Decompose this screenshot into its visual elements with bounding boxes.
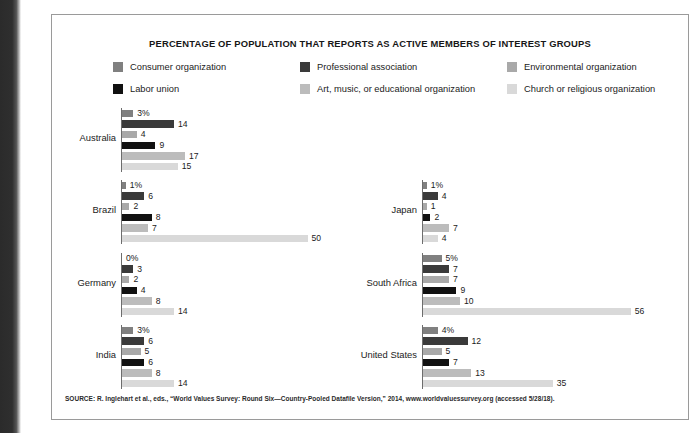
bar-row: 3	[122, 264, 188, 275]
bar-church-or-religious-organization	[423, 308, 631, 315]
bar-professional-association	[122, 337, 144, 344]
bar-art-music-or-educational-organization	[423, 224, 449, 231]
country-axis-label: India	[0, 349, 116, 360]
page-gutter	[0, 0, 21, 433]
bar-row: 4%	[423, 325, 566, 336]
bar-value-label: 14	[178, 120, 188, 129]
bar-church-or-religious-organization	[122, 308, 174, 315]
bar-row: 9	[122, 140, 199, 151]
bar-environmental-organization	[122, 131, 137, 138]
bar-church-or-religious-organization	[122, 235, 308, 242]
bar-professional-association	[423, 337, 468, 344]
bar-row: 14	[122, 306, 188, 317]
bar-row: 2	[423, 212, 458, 223]
bar-value-label: 3%	[137, 109, 149, 118]
bar-row: 10	[423, 296, 644, 307]
bar-row: 7	[122, 223, 321, 234]
bar-row: 35	[423, 378, 566, 389]
bar-labor-union	[423, 214, 430, 221]
bar-consumer-organization	[122, 110, 133, 117]
bar-value-label: 2	[133, 202, 138, 211]
bar-consumer-organization	[423, 327, 438, 334]
bar-row: 50	[122, 233, 321, 244]
bar-value-label: 8	[156, 297, 161, 306]
bar-row: 5%	[423, 253, 644, 264]
page-surface: PERCENTAGE OF POPULATION THAT REPORTS AS…	[21, 0, 691, 433]
bar-value-label: 7	[152, 224, 157, 233]
bar-row: 12	[423, 336, 566, 347]
bar-art-music-or-educational-organization	[423, 369, 471, 376]
bar-church-or-religious-organization	[122, 163, 178, 170]
bar-row: 3%	[122, 325, 188, 336]
bar-church-or-religious-organization	[423, 235, 438, 242]
bar-row: 3%	[122, 108, 199, 119]
bar-labor-union	[122, 287, 137, 294]
country-group-united-states: United States4%12571335	[361, 325, 691, 389]
bar-professional-association	[122, 120, 174, 127]
bar-environmental-organization	[423, 348, 442, 355]
bar-value-label: 0%	[126, 254, 138, 263]
bar-value-label: 4%	[442, 326, 454, 335]
bar-church-or-religious-organization	[122, 380, 174, 387]
bar-row: 5	[122, 346, 188, 357]
bar-consumer-organization	[423, 182, 427, 189]
bar-value-label: 35	[557, 379, 567, 388]
bar-row: 7	[423, 264, 644, 275]
bar-row: 8	[122, 368, 188, 379]
bar-row: 7	[423, 274, 644, 285]
bar-stack: 5%7791056	[423, 253, 644, 317]
country-axis-label: United States	[267, 349, 417, 360]
bar-stack: 0%324814	[122, 253, 188, 317]
bar-value-label: 50	[312, 234, 322, 243]
bar-value-label: 12	[472, 337, 482, 346]
bar-art-music-or-educational-organization	[122, 152, 185, 159]
bar-value-label: 6	[148, 192, 153, 201]
bar-value-label: 14	[178, 379, 188, 388]
chart-plot-area: Australia3%14491715Brazil1%628750Germany…	[52, 15, 688, 419]
bar-art-music-or-educational-organization	[122, 224, 148, 231]
bar-row: 5	[423, 346, 566, 357]
bar-stack: 3%656814	[122, 325, 188, 389]
bar-labor-union	[122, 142, 155, 149]
bar-value-label: 5	[446, 347, 451, 356]
bar-environmental-organization	[122, 276, 129, 283]
bar-value-label: 9	[460, 286, 465, 295]
bar-value-label: 4	[442, 192, 447, 201]
bar-value-label: 7	[453, 358, 458, 367]
bar-row: 2	[122, 274, 188, 285]
bar-value-label: 14	[178, 307, 188, 316]
bar-value-label: 6	[148, 337, 153, 346]
country-axis-label: Germany	[0, 277, 116, 288]
bar-value-label: 8	[156, 369, 161, 378]
country-group-australia: Australia3%14491715	[60, 108, 390, 172]
bar-professional-association	[423, 265, 449, 272]
bar-labor-union	[122, 214, 152, 221]
bar-value-label: 13	[475, 369, 485, 378]
figure-frame: PERCENTAGE OF POPULATION THAT REPORTS AS…	[51, 14, 689, 420]
bar-professional-association	[122, 192, 144, 199]
bar-value-label: 7	[453, 275, 458, 284]
bar-consumer-organization	[122, 327, 133, 334]
bar-consumer-organization	[122, 182, 126, 189]
bar-environmental-organization	[122, 348, 141, 355]
bar-row: 14	[122, 378, 188, 389]
bar-stack: 4%12571335	[423, 325, 566, 389]
bar-row: 1	[423, 201, 458, 212]
bar-row: 56	[423, 306, 644, 317]
bar-row: 0%	[122, 253, 188, 264]
bar-value-label: 2	[133, 275, 138, 284]
bar-value-label: 17	[189, 152, 199, 161]
bar-value-label: 6	[148, 358, 153, 367]
bar-value-label: 7	[453, 224, 458, 233]
bar-row: 1%	[423, 180, 458, 191]
bar-labor-union	[122, 359, 144, 366]
bar-value-label: 3	[137, 265, 142, 274]
bar-labor-union	[423, 359, 449, 366]
bar-labor-union	[423, 287, 456, 294]
bar-art-music-or-educational-organization	[122, 369, 152, 376]
bar-row: 15	[122, 161, 199, 172]
bar-row: 4	[122, 285, 188, 296]
bar-value-label: 5%	[446, 254, 458, 263]
bar-value-label: 4	[141, 286, 146, 295]
bar-value-label: 1%	[431, 181, 443, 190]
